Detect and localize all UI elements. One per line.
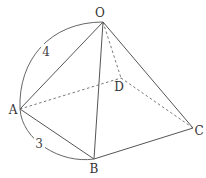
edge-OA (20, 22, 103, 109)
edge-OC (103, 22, 193, 128)
measurement-OA: 4 (42, 45, 50, 59)
vertex-label-B: B (90, 162, 99, 176)
vertex-label-C: C (194, 124, 203, 138)
edge-AB (20, 109, 94, 159)
vertex-label-O: O (95, 6, 105, 20)
edge-BC (94, 128, 193, 159)
pyramid-diagram: 4 3 O A B C D (0, 0, 206, 178)
edge-OD (103, 22, 121, 78)
edge-OB (94, 22, 103, 159)
measurement-AB: 3 (35, 137, 43, 151)
vertex-label-D: D (114, 80, 124, 94)
vertex-label-A: A (8, 103, 18, 117)
